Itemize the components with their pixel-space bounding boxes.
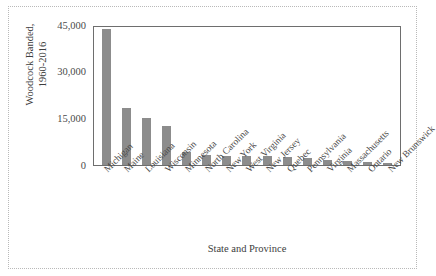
x-axis-title: State and Province (93, 243, 401, 254)
y-axis-tick-label: 30,000 (34, 67, 86, 78)
y-axis-tick-label: 45,000 (34, 21, 86, 32)
x-axis-tick-labels: MichiganMaineLouisianaWisconsinMinnesota… (93, 167, 401, 245)
y-axis-tick-labels: 015,00030,00045,000 (32, 0, 86, 276)
bar (102, 29, 111, 165)
y-axis-tick-label: 15,000 (34, 114, 86, 125)
y-axis-tick-label: 0 (34, 161, 86, 172)
